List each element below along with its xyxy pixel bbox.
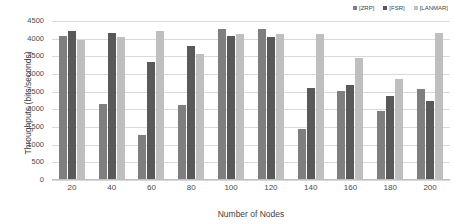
bar-zrp-180[interactable] <box>377 111 385 180</box>
legend-item-fsr[interactable]: [FSR] <box>383 5 404 12</box>
x-axis-tick-180: 180 <box>370 183 410 197</box>
bar-zrp-120[interactable] <box>258 29 266 180</box>
x-axis-tick-40: 40 <box>92 183 132 197</box>
bar-zrp-80[interactable] <box>178 105 186 180</box>
bar-fsr-180[interactable] <box>386 96 394 180</box>
y-axis-tick: 4500 <box>27 17 44 25</box>
bar-zrp-20[interactable] <box>59 36 67 180</box>
bar-zrp-200[interactable] <box>417 89 425 180</box>
bar-fsr-200[interactable] <box>426 101 434 181</box>
y-axis-tick: 500 <box>31 158 44 166</box>
bar-zrp-160[interactable] <box>337 91 345 180</box>
bar-group-180 <box>370 21 410 180</box>
bar-fsr-40[interactable] <box>108 33 116 180</box>
legend-item-zrp[interactable]: [ZRP] <box>353 5 374 12</box>
bar-fsr-20[interactable] <box>68 31 76 180</box>
bar-lanmar-140[interactable] <box>316 34 324 180</box>
x-axis-tick-120: 120 <box>251 183 291 197</box>
bar-fsr-80[interactable] <box>187 46 195 180</box>
bar-zrp-60[interactable] <box>138 135 146 180</box>
y-axis-tick-labels: 450040003500300025002000150010005000 <box>0 21 48 180</box>
y-axis-tick: 2000 <box>27 105 44 113</box>
x-axis-tick-100: 100 <box>211 183 251 197</box>
legend-swatch-fsr <box>383 6 387 10</box>
bar-group-100 <box>211 21 251 180</box>
y-axis-tick: 2500 <box>27 88 44 96</box>
bar-lanmar-100[interactable] <box>236 34 244 180</box>
bar-fsr-120[interactable] <box>267 37 275 180</box>
legend-label-zrp: [ZRP] <box>359 5 374 12</box>
bar-groups <box>52 21 450 180</box>
bar-lanmar-160[interactable] <box>355 58 363 180</box>
bar-fsr-140[interactable] <box>307 88 315 180</box>
chart-legend: [ZRP] [FSR] [LANMAR] <box>353 2 448 14</box>
y-axis-tick: 1500 <box>27 123 44 131</box>
x-axis-title: Number of Nodes <box>52 209 450 219</box>
x-axis-tick-140: 140 <box>291 183 331 197</box>
bar-fsr-60[interactable] <box>147 62 155 180</box>
y-axis-tick: 1000 <box>27 141 44 149</box>
bar-group-60 <box>132 21 172 180</box>
bar-zrp-40[interactable] <box>99 104 107 180</box>
bar-group-160 <box>331 21 371 180</box>
legend-swatch-zrp <box>353 6 357 10</box>
bar-group-80 <box>171 21 211 180</box>
bar-lanmar-120[interactable] <box>276 34 284 180</box>
legend-label-lanmar: [LANMAR] <box>420 5 448 12</box>
legend-swatch-lanmar <box>414 6 418 10</box>
bar-group-200 <box>410 21 450 180</box>
bar-fsr-160[interactable] <box>346 85 354 180</box>
legend-item-lanmar[interactable]: [LANMAR] <box>414 5 448 12</box>
bar-lanmar-200[interactable] <box>435 33 443 180</box>
bar-lanmar-180[interactable] <box>395 79 403 180</box>
x-axis-tick-60: 60 <box>132 183 172 197</box>
y-axis-tick: 4000 <box>27 35 44 43</box>
bar-lanmar-60[interactable] <box>156 31 164 180</box>
x-axis-tick-160: 160 <box>331 183 371 197</box>
bar-fsr-100[interactable] <box>227 36 235 180</box>
x-axis-tick-80: 80 <box>171 183 211 197</box>
x-axis-tick-labels: 20406080100120140160180200 <box>52 183 450 197</box>
x-axis-tick-20: 20 <box>52 183 92 197</box>
y-axis-tick: 0 <box>40 176 44 184</box>
x-axis-line <box>52 179 450 180</box>
bar-group-120 <box>251 21 291 180</box>
gridline <box>52 180 450 181</box>
x-axis-tick-200: 200 <box>410 183 450 197</box>
bar-group-40 <box>92 21 132 180</box>
bar-zrp-100[interactable] <box>218 29 226 180</box>
bar-chart: [ZRP] [FSR] [LANMAR] Throughputs (bits/s… <box>0 0 454 224</box>
plot-area <box>52 21 450 180</box>
bar-lanmar-80[interactable] <box>196 54 204 180</box>
y-axis-tick: 3000 <box>27 70 44 78</box>
bar-zrp-140[interactable] <box>298 129 306 180</box>
bar-lanmar-40[interactable] <box>117 37 125 180</box>
bar-lanmar-20[interactable] <box>77 40 85 180</box>
legend-label-fsr: [FSR] <box>389 5 404 12</box>
y-axis-tick: 3500 <box>27 52 44 60</box>
bar-group-20 <box>52 21 92 180</box>
bar-group-140 <box>291 21 331 180</box>
